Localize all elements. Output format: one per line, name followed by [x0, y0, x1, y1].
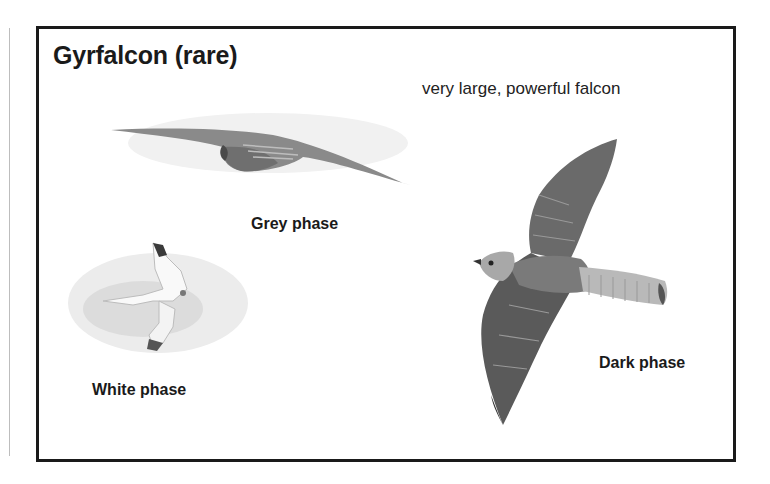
species-title: Gyrfalcon (rare)	[53, 41, 237, 70]
white-phase-label: White phase	[92, 381, 186, 399]
falcon-white-phase-illustration-icon	[63, 239, 253, 369]
species-panel: Gyrfalcon (rare) very large, powerful fa…	[36, 26, 736, 462]
species-description: very large, powerful falcon	[422, 79, 620, 99]
falcon-grey-phase-illustration-icon	[103, 105, 433, 195]
page-margin-rule	[9, 28, 10, 456]
dark-phase-label: Dark phase	[599, 354, 685, 372]
grey-phase-label: Grey phase	[251, 215, 338, 233]
falcon-dark-phase-illustration-icon	[469, 135, 669, 435]
